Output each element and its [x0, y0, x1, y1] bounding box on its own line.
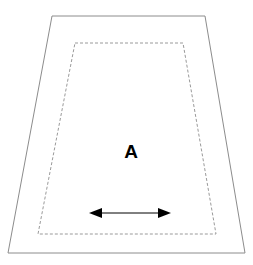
- diagram-canvas: A: [0, 0, 253, 265]
- trapezoid-diagram-svg: A: [0, 0, 253, 265]
- background-rect: [0, 0, 253, 265]
- region-label-a: A: [124, 141, 138, 162]
